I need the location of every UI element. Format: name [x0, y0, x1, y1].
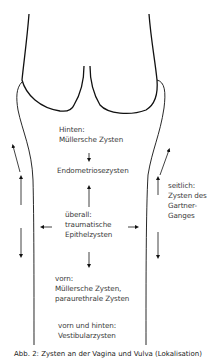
label-endometriosis: Endometriosezysten: [57, 166, 129, 176]
label-lateral-line2: Gartner-: [168, 201, 197, 211]
figure-caption: Abb. 2: Zysten an der Vagina und Vulva (…: [14, 350, 202, 358]
right-lobe-outline: [90, 14, 157, 113]
label-everywhere-line1: traumatische: [65, 220, 111, 230]
arrow-right-upper-icon: [160, 150, 169, 175]
label-posterior-heading: Hinten:: [59, 125, 84, 135]
label-lateral-line1: Zysten des: [168, 191, 207, 201]
label-anterior-line1: Müllersche Zysten,: [55, 284, 121, 294]
label-everywhere-heading: überall:: [65, 210, 92, 220]
label-lateral-line3: Ganges: [168, 211, 195, 221]
right-wall-outline: [146, 80, 165, 345]
label-anterior-posterior-text: Vestibularzysten: [58, 331, 116, 341]
label-anterior-line2: paraurethrale Zysten: [55, 294, 129, 304]
label-posterior-text: Müllersche Zysten: [59, 135, 123, 145]
left-lobe-outline: [22, 14, 84, 111]
label-everywhere-line2: Epithelzysten: [65, 230, 112, 240]
label-anterior-posterior-heading: vorn und hinten:: [58, 321, 116, 331]
label-lateral-heading: seitlich:: [168, 181, 195, 191]
arrow-left-upper-icon: [13, 146, 20, 172]
left-wall-outline: [17, 82, 34, 345]
label-anterior-heading: vorn:: [55, 274, 73, 284]
